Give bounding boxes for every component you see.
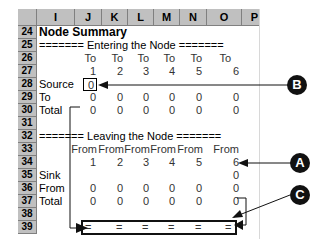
callout-a: A xyxy=(290,153,310,173)
callout-b: B xyxy=(287,75,307,95)
callout-c: C xyxy=(290,185,310,205)
annotation-arrows xyxy=(0,0,328,243)
